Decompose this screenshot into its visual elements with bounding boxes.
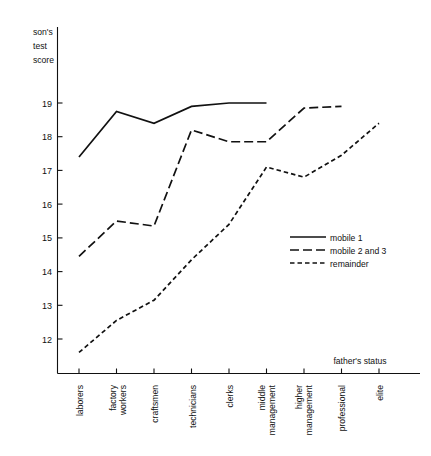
x-tick-label-laborers: laborers <box>75 385 85 416</box>
y-tick-label-19: 19 <box>42 99 52 109</box>
x-tick-label-craftsmen: craftsmen <box>150 385 160 423</box>
x-tick-label-technicians: technicians <box>188 385 198 428</box>
y-axis-ticks <box>58 103 63 339</box>
series-line-mobile-2-and-3 <box>79 106 342 256</box>
legend-label-remainder: remainder <box>330 259 369 269</box>
y-tick-label-15: 15 <box>42 233 52 243</box>
x-tick-label-middle-management-1: middle <box>257 385 267 411</box>
line-chart: son's test score 19 18 17 16 15 14 13 12 <box>0 0 431 456</box>
x-tick-label-professional: professional <box>337 385 347 431</box>
x-tick-label-clerks: clerks <box>225 385 235 407</box>
legend: mobile 1 mobile 2 and 3 remainder <box>290 233 387 269</box>
x-tick-label-higher-management-1: higher <box>294 385 304 409</box>
y-tick-label-12: 12 <box>42 335 52 345</box>
series-line-mobile-1 <box>79 103 267 157</box>
x-axis-title: father's status <box>333 356 386 366</box>
y-tick-label-17: 17 <box>42 166 52 176</box>
x-axis-ticks <box>79 369 379 374</box>
x-tick-label-middle-management-2: management <box>267 384 277 435</box>
y-axis-label-line-3: score <box>33 55 54 65</box>
y-axis-label-line-1: son's <box>33 27 53 37</box>
y-axis-tick-labels: 19 18 17 16 15 14 13 12 <box>42 99 52 345</box>
y-tick-label-18: 18 <box>42 132 52 142</box>
y-tick-label-14: 14 <box>42 267 52 277</box>
legend-label-mobile-1: mobile 1 <box>330 233 363 243</box>
legend-label-mobile-2-and-3: mobile 2 and 3 <box>330 246 387 256</box>
x-tick-label-higher-management-2: management <box>304 384 314 435</box>
y-tick-label-13: 13 <box>42 301 52 311</box>
x-tick-label-factory-workers-1: factory <box>108 384 118 410</box>
y-axis-label-line-2: test <box>33 41 47 51</box>
chart-container: son's test score 19 18 17 16 15 14 13 12 <box>0 0 431 456</box>
x-tick-label-factory-workers-2: workers <box>118 385 128 416</box>
y-tick-label-16: 16 <box>42 200 52 210</box>
x-tick-label-elite: elite <box>375 385 385 401</box>
x-axis-tick-labels: laborers factory workers craftsmen techn… <box>75 384 385 435</box>
